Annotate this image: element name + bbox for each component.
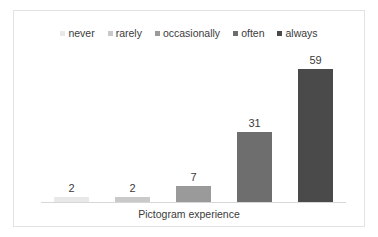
legend-item-never[interactable]: never bbox=[60, 28, 94, 39]
bar-slot-always: 59 bbox=[285, 53, 346, 202]
legend-swatch-often bbox=[233, 31, 238, 36]
legend-label-never: never bbox=[68, 28, 94, 39]
bar-value-rarely: 2 bbox=[129, 183, 135, 194]
bars-row: 2 2 7 31 59 bbox=[41, 53, 346, 202]
bar-slot-rarely: 2 bbox=[102, 53, 163, 202]
bar-often[interactable] bbox=[237, 132, 271, 202]
legend-item-always[interactable]: always bbox=[277, 28, 317, 39]
legend-item-rarely[interactable]: rarely bbox=[108, 28, 142, 39]
bar-chart-figure: never rarely occasionally often always 2… bbox=[13, 10, 365, 227]
legend-swatch-occasionally bbox=[155, 31, 160, 36]
bar-occasionally[interactable] bbox=[176, 186, 210, 202]
legend-label-occasionally: occasionally bbox=[163, 28, 220, 39]
legend-item-often[interactable]: often bbox=[233, 28, 264, 39]
legend-swatch-always bbox=[277, 31, 282, 36]
bar-value-never: 2 bbox=[68, 183, 74, 194]
bar-slot-often: 31 bbox=[224, 53, 285, 202]
bar-slot-never: 2 bbox=[41, 53, 102, 202]
plot-area: 2 2 7 31 59 bbox=[41, 53, 346, 203]
legend-label-rarely: rarely bbox=[116, 28, 142, 39]
x-axis-title: Pictogram experience bbox=[14, 208, 364, 220]
legend-label-always: always bbox=[285, 28, 317, 39]
bar-value-occasionally: 7 bbox=[190, 172, 196, 183]
chart-legend: never rarely occasionally often always bbox=[14, 26, 364, 40]
legend-swatch-never bbox=[60, 31, 65, 36]
legend-item-occasionally[interactable]: occasionally bbox=[155, 28, 220, 39]
bar-always[interactable] bbox=[298, 69, 332, 202]
legend-swatch-rarely bbox=[108, 31, 113, 36]
bar-value-often: 31 bbox=[248, 118, 260, 129]
legend-label-often: often bbox=[241, 28, 264, 39]
bar-slot-occasionally: 7 bbox=[163, 53, 224, 202]
x-axis-line bbox=[41, 202, 346, 203]
bar-value-always: 59 bbox=[309, 55, 321, 66]
